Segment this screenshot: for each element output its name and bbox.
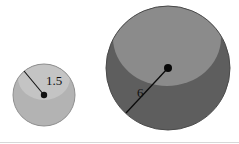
- large-circle-radius-label: 6: [137, 85, 144, 100]
- circles-diagram: 1.5 6: [0, 0, 239, 144]
- large-circle-center-dot: [164, 64, 172, 72]
- small-circle-center-dot: [41, 92, 47, 98]
- small-circle-radius-label: 1.5: [46, 73, 62, 88]
- figure-canvas: 1.5 6: [0, 0, 239, 144]
